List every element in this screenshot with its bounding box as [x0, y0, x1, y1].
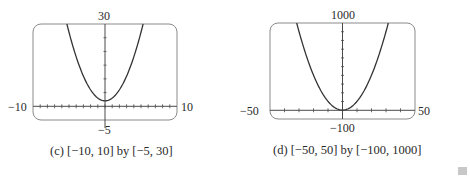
- xmin-label-d: −50: [240, 105, 259, 117]
- graph-panel-d: 1000 −50 50 −100 (d) [−50, 50] by [−100,…: [235, 0, 470, 178]
- xmax-label-d: 50: [418, 105, 430, 117]
- ymin-label-c: −5: [98, 124, 111, 136]
- graph-panel-c: 30 −10 10 −5 (c) [−10, 10] by [−5, 30]: [0, 0, 235, 178]
- ymax-label-d: 1000: [331, 9, 355, 21]
- caption-d: (d) [−50, 50] by [−100, 1000]: [273, 144, 421, 157]
- corner-marker: [458, 167, 467, 175]
- xmax-label-c: 10: [181, 101, 193, 113]
- caption-c: (c) [−10, 10] by [−5, 30]: [50, 145, 173, 158]
- xmin-label-c: −10: [8, 101, 27, 113]
- ymax-label-c: 30: [98, 10, 110, 22]
- ymin-label-d: −100: [330, 122, 355, 134]
